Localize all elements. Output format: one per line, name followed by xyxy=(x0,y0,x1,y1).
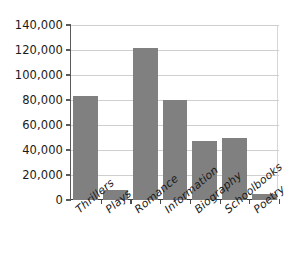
x-axis-tick-mark xyxy=(160,199,161,204)
y-axis-tick-label: 120,000 xyxy=(15,43,63,57)
x-axis-tick-mark xyxy=(220,199,221,204)
y-axis-tick-label: 0 xyxy=(56,193,63,207)
bar-slot xyxy=(101,25,131,200)
bar-slot xyxy=(130,25,160,200)
bar-chart: 020,00040,00060,00080,000100,000120,0001… xyxy=(0,0,293,262)
y-axis-tick-label: 20,000 xyxy=(22,168,63,182)
y-axis-tick-label: 100,000 xyxy=(15,68,63,82)
bar-romance[interactable] xyxy=(133,48,158,201)
y-axis-tick-label: 80,000 xyxy=(22,93,63,107)
x-axis-tick-mark xyxy=(190,199,191,204)
y-axis-tick-label: 60,000 xyxy=(22,118,63,132)
bar-thrillers[interactable] xyxy=(73,96,98,200)
y-axis-tick-label: 40,000 xyxy=(22,143,63,157)
bar-slot xyxy=(71,25,101,200)
x-axis-tick-mark xyxy=(101,199,102,204)
y-axis-tick-label: 140,000 xyxy=(15,18,63,32)
x-axis-tick-mark xyxy=(279,199,280,204)
